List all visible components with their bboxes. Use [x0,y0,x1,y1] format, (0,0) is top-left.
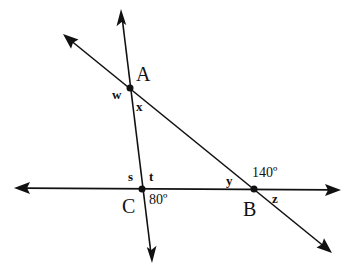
label-angle-w: w [112,87,122,102]
point-a [127,85,134,92]
point-b [251,186,258,193]
horizontal-line-cb [14,182,341,196]
label-point-c: C [122,195,135,217]
geometry-diagram: A C B w x s t y z 80º 140º [0,0,348,267]
label-angle-t: t [149,169,154,184]
label-point-b: B [243,198,256,220]
point-c [139,186,146,193]
arrowhead-bottom-icon [147,246,157,263]
label-angle-y: y [226,173,233,188]
arrowhead-top-icon [117,9,127,26]
line-ab [63,34,332,253]
label-angle-c-80: 80º [149,192,168,207]
line-ac [117,9,157,263]
label-angle-s: s [128,169,133,184]
label-angle-x: x [136,99,143,114]
label-angle-b-140: 140º [252,165,278,180]
label-point-a: A [136,63,151,85]
arrowhead-lower-right-icon [317,238,333,253]
arrowhead-upper-left-icon [63,34,79,49]
label-angle-z: z [272,191,278,206]
